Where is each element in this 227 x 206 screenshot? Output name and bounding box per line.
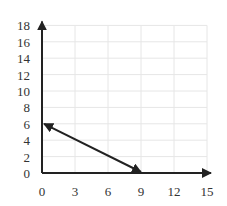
y-tick-label: 8 (24, 100, 31, 115)
x-tick-label: 0 (39, 184, 46, 199)
axes (42, 21, 211, 173)
x-tick-label: 3 (72, 184, 79, 199)
x-tick-label: 6 (105, 184, 112, 199)
x-axis-tick-labels: 03691215 (39, 184, 214, 199)
line-segment-chart: 03691215 024681012141618 (0, 0, 227, 206)
grid-lines (42, 25, 207, 173)
y-axis-tick-labels: 024681012141618 (17, 18, 31, 181)
y-tick-label: 6 (24, 117, 31, 132)
x-tick-label: 9 (138, 184, 145, 199)
data-series (44, 124, 141, 172)
x-tick-label: 12 (168, 184, 181, 199)
y-tick-label: 10 (17, 84, 30, 99)
y-tick-label: 2 (24, 150, 31, 165)
y-tick-label: 14 (17, 51, 31, 66)
y-tick-label: 0 (24, 166, 31, 181)
line-segment (44, 124, 141, 172)
y-tick-label: 12 (17, 68, 30, 83)
y-tick-label: 16 (17, 35, 31, 50)
y-tick-label: 18 (17, 18, 30, 33)
x-tick-label: 15 (201, 184, 214, 199)
y-tick-label: 4 (24, 133, 31, 148)
